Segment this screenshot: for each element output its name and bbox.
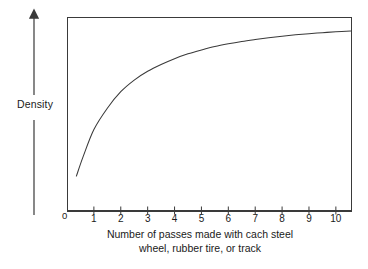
x-axis-tick-label-10: 10	[330, 213, 341, 224]
x-axis-caption-line-2: wheel, rubber tire, or track	[50, 242, 350, 256]
x-axis-tick-label-7: 7	[252, 213, 258, 224]
x-axis-tick-label-6: 6	[226, 213, 232, 224]
x-axis-tick-label-3: 3	[145, 213, 151, 224]
x-axis-tick-label-5: 5	[199, 213, 205, 224]
x-axis-tick-label-1: 1	[91, 213, 97, 224]
x-axis-tick-label-9: 9	[306, 213, 312, 224]
x-axis-tick-label-4: 4	[172, 213, 178, 224]
density-vs-passes-figure: Density 0 12345678910 Number of passes m…	[0, 0, 368, 269]
x-axis-tick-labels: 12345678910	[0, 213, 368, 229]
x-axis-tick-label-2: 2	[118, 213, 124, 224]
x-axis-tick-label-8: 8	[279, 213, 285, 224]
x-axis-caption-line-1: Number of passes made with cach steel	[50, 228, 350, 242]
x-axis-caption: Number of passes made with cach steel wh…	[50, 228, 350, 255]
